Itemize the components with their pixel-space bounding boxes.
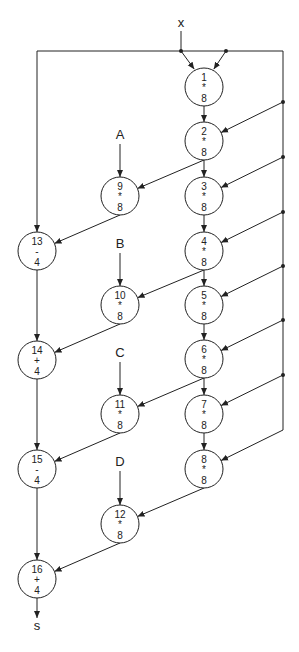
node-width: 8 <box>117 311 123 322</box>
edge-x-4 <box>221 212 283 243</box>
edge-x-5 <box>221 266 283 297</box>
edge-x-1a <box>181 51 194 69</box>
node-op: * <box>118 519 122 530</box>
node-op: * <box>202 191 206 202</box>
edge-x-7 <box>221 375 283 406</box>
edge-x-6 <box>221 320 283 351</box>
node-op: + <box>34 574 40 585</box>
node-11: 11*8 <box>101 395 139 433</box>
input-label-D: D <box>115 454 124 469</box>
node-width: 8 <box>201 93 207 104</box>
node-op: * <box>202 409 206 420</box>
edge-x-1b <box>214 51 226 69</box>
edge-x-8 <box>221 430 283 461</box>
node-15: 15-4 <box>18 450 56 488</box>
node-op: - <box>35 246 38 257</box>
node-12: 12*8 <box>101 505 139 543</box>
node-op: + <box>34 355 40 366</box>
node-10: 10*8 <box>101 286 139 324</box>
node-op: * <box>202 246 206 257</box>
node-width: 8 <box>201 475 207 486</box>
node-op: * <box>202 300 206 311</box>
edge-x-3 <box>221 157 283 188</box>
node-op: - <box>35 464 38 475</box>
node-width: 8 <box>201 420 207 431</box>
node-width: 8 <box>201 365 207 376</box>
node-op: * <box>202 136 206 147</box>
node-width: 4 <box>34 366 40 377</box>
edge-x-2 <box>221 102 283 133</box>
node-8: 8*8 <box>185 450 223 488</box>
node-width: 8 <box>117 530 123 541</box>
labels-layer: xABCDs <box>34 15 185 633</box>
input-label-C: C <box>115 345 124 360</box>
node-5: 5*8 <box>185 286 223 324</box>
node-2: 2*8 <box>185 122 223 160</box>
edge-10-14 <box>54 324 120 352</box>
node-4: 4*8 <box>185 232 223 270</box>
node-width: 8 <box>201 257 207 268</box>
node-6: 6*8 <box>185 340 223 378</box>
node-op: * <box>202 354 206 365</box>
input-label-A: A <box>116 127 125 142</box>
node-width: 4 <box>34 475 40 486</box>
node-1: 1*8 <box>185 68 223 106</box>
node-op: * <box>118 191 122 202</box>
edge-9-13 <box>54 215 120 243</box>
output-label-s: s <box>34 618 41 633</box>
input-label-B: B <box>116 236 125 251</box>
node-op: * <box>202 82 206 93</box>
node-width: 8 <box>201 202 207 213</box>
node-width: 4 <box>34 257 40 268</box>
node-width: 8 <box>117 420 123 431</box>
edge-8-12 <box>137 488 204 517</box>
node-width: 4 <box>34 585 40 596</box>
node-9: 9*8 <box>101 177 139 215</box>
node-7: 7*8 <box>185 395 223 433</box>
node-3: 3*8 <box>185 177 223 215</box>
node-width: 8 <box>201 311 207 322</box>
edge-12-16 <box>54 543 120 571</box>
node-width: 8 <box>117 202 123 213</box>
node-op: * <box>118 300 122 311</box>
edge-11-15 <box>54 433 120 461</box>
dataflow-graph: 1*82*83*84*85*86*87*88*89*810*811*812*81… <box>0 0 299 652</box>
node-width: 8 <box>201 147 207 158</box>
node-14: 14+4 <box>18 341 56 379</box>
node-16: 16+4 <box>18 560 56 598</box>
node-op: * <box>118 409 122 420</box>
input-label-x: x <box>178 15 185 30</box>
node-13: 13-4 <box>18 232 56 270</box>
edges-layer <box>37 31 285 618</box>
node-op: * <box>202 464 206 475</box>
